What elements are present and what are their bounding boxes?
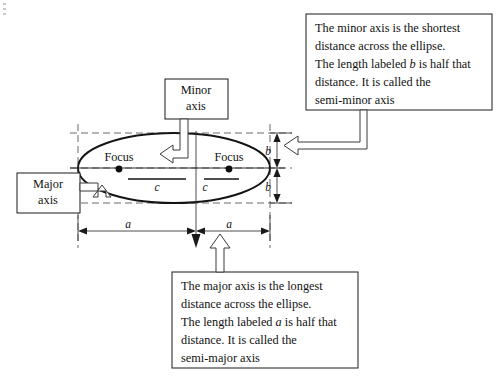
semi-minor-lower-dimension: b (265, 168, 280, 203)
major-callout-line-3: The length labeled a is half that (181, 315, 337, 329)
focus-right-label: Focus (214, 150, 243, 164)
minor-callout-line-3: The length labeled b is half that (315, 57, 471, 71)
major-axis-label-line2: axis (38, 193, 58, 207)
major-callout-line3-pre: The length labeled (181, 315, 276, 329)
major-axis-pointer-arrow (80, 183, 111, 197)
minor-axis-callout-box: The minor axis is the shortest distance … (306, 14, 492, 110)
semi-major-dimension-row: a a (78, 215, 270, 241)
focal-distance-left: c (128, 179, 186, 193)
minor-axis-label-line1: Minor (181, 83, 212, 97)
minor-axis-label-box: Minor axis (165, 79, 228, 119)
minor-callout-line3-post: is half that (416, 57, 472, 71)
minor-callout-pointer-arrow (284, 110, 367, 155)
minor-callout-line-5: semi-minor axis (315, 93, 395, 107)
minor-callout-line-2: distance across the ellipse. (315, 39, 445, 53)
scan-artifact (3, 3, 6, 15)
focal-right-label: c (202, 181, 207, 193)
minor-callout-line3-pre: The length labeled (315, 57, 410, 71)
ellipse-diagram-page: Focus Focus c c b b (0, 0, 498, 379)
semi-minor-upper-label: b (265, 145, 271, 157)
focal-distance-right: c (202, 179, 239, 193)
major-callout-pointer-arrow (210, 234, 230, 272)
minor-callout-line-1: The minor axis is the shortest (315, 21, 461, 35)
major-callout-line-2: distance across the ellipse. (181, 297, 311, 311)
major-callout-line-4: distance. It is called the (181, 333, 297, 347)
minor-callout-line-4: distance. It is called the (315, 75, 431, 89)
ellipse-diagram-canvas: Focus Focus c c b b (0, 0, 498, 379)
major-callout-line3-post: is half that (282, 315, 338, 329)
major-axis-label-box: Major axis (17, 173, 80, 213)
minor-axis-label-line2: axis (186, 99, 206, 113)
semi-minor-lower-label: b (265, 181, 271, 193)
major-axis-label-line1: Major (33, 177, 63, 191)
focus-right-marker (226, 166, 233, 173)
major-callout-line-1: The major axis is the longest (181, 279, 323, 293)
semi-minor-upper-dimension: b (265, 133, 280, 168)
focus-left-marker (116, 166, 123, 173)
focal-left-label: c (154, 181, 159, 193)
semi-major-left-label: a (125, 218, 131, 230)
major-callout-line-5: semi-major axis (181, 351, 260, 365)
semi-major-right-label: a (226, 218, 232, 230)
major-axis-callout-box: The major axis is the longest distance a… (172, 272, 358, 368)
minor-axis-pointer-arrow (160, 119, 188, 163)
focus-left-label: Focus (104, 150, 133, 164)
